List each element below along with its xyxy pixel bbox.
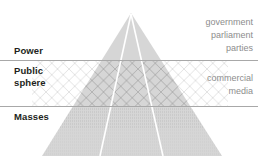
actor-label-public-sphere: commercial media bbox=[207, 72, 253, 98]
tier-label-power: Power bbox=[14, 45, 43, 57]
tier-label-masses: Masses bbox=[14, 111, 49, 123]
power-pyramid-diagram: Power Public sphere Masses government pa… bbox=[0, 0, 258, 165]
actor-label-power: government parliament parties bbox=[205, 16, 253, 55]
tier-label-public-sphere: Public sphere bbox=[14, 65, 46, 88]
